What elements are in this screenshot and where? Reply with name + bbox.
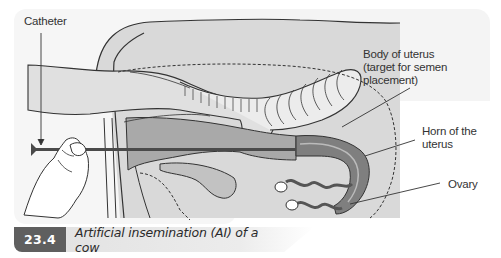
caption-text: Artificial insemination (AI) of a cow <box>66 227 314 252</box>
caption-number: 23.4 <box>14 227 66 252</box>
label-body-of-uterus: Body of uterus (target for semen placeme… <box>363 48 501 87</box>
ovary-lower <box>286 200 298 210</box>
label-body-of-uterus-line2: (target for semen placement) <box>363 61 501 87</box>
label-catheter: Catheter <box>24 15 67 28</box>
figure-caption: 23.4 Artificial insemination (AI) of a c… <box>14 227 314 252</box>
label-body-of-uterus-line1: Body of uterus <box>363 48 501 61</box>
label-horn-line2: uterus <box>422 138 477 151</box>
label-horn-of-uterus: Horn of the uterus <box>422 125 477 151</box>
ovary-upper <box>275 182 287 192</box>
label-horn-line1: Horn of the <box>422 125 477 138</box>
label-ovary: Ovary <box>448 178 478 191</box>
